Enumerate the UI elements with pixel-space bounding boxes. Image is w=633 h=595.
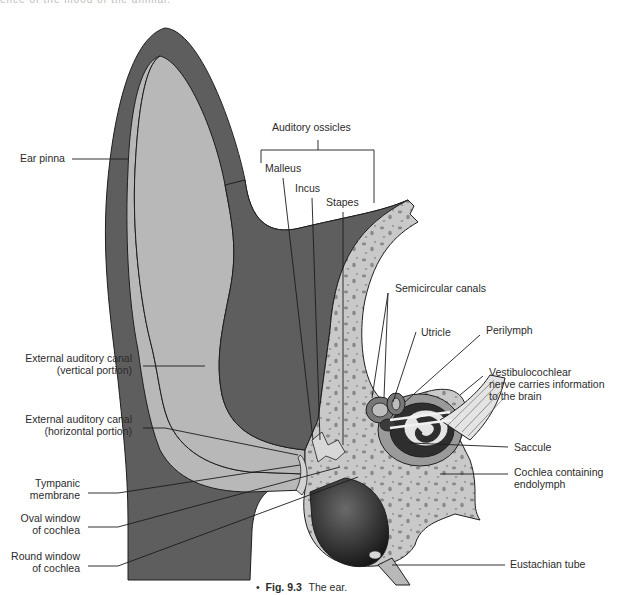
label-vestibulocochlear-2: nerve carries information	[489, 378, 605, 390]
label-eac-vertical-2: (vertical portion)	[57, 364, 132, 376]
eustachian-tube-shape	[378, 558, 410, 585]
caption-number: Fig. 9.3	[266, 581, 302, 593]
label-round-1: Round window	[11, 550, 80, 562]
label-vestibulocochlear-3: to the brain	[489, 390, 542, 402]
label-eac-horizontal-1: External auditory canal	[25, 413, 132, 425]
label-utricle: Utricle	[421, 326, 451, 338]
label-eustachian: Eustachian tube	[510, 558, 585, 570]
label-tympanic-1: Tympanic	[35, 477, 80, 489]
label-malleus: Malleus	[265, 162, 301, 174]
label-ear-pinna: Ear pinna	[20, 152, 65, 164]
caption-text: The ear.	[309, 581, 348, 593]
label-incus: Incus	[295, 182, 320, 194]
label-oval-1: Oval window	[20, 512, 80, 524]
round-window-highlight	[369, 551, 381, 559]
label-eac-vertical-1: External auditory canal	[25, 352, 132, 364]
label-eac-horizontal-2: (horizontal portion)	[44, 425, 132, 437]
label-perilymph: Perilymph	[486, 324, 533, 336]
label-oval-2: of cochlea	[32, 524, 80, 536]
label-cochlea-2: endolymph	[514, 478, 566, 490]
label-tympanic-2: membrane	[30, 489, 80, 501]
ear-diagram: Auditory ossicles Malleus Incus Stapes E…	[0, 0, 633, 595]
utricle-leader	[393, 332, 416, 402]
label-stapes: Stapes	[326, 196, 359, 208]
label-saccule: Saccule	[514, 441, 552, 453]
semicircular-leader	[372, 293, 388, 398]
label-vestibulocochlear-1: Vestibulocochlear	[489, 366, 572, 378]
label-semicircular-canals: Semicircular canals	[395, 282, 486, 294]
label-auditory-ossicles: Auditory ossicles	[272, 121, 351, 133]
label-round-2: of cochlea	[32, 562, 80, 574]
label-cochlea-1: Cochlea containing	[514, 466, 603, 478]
figure-caption: • Fig. 9.3 The ear.	[256, 581, 347, 593]
caption-bullet: •	[256, 581, 260, 593]
